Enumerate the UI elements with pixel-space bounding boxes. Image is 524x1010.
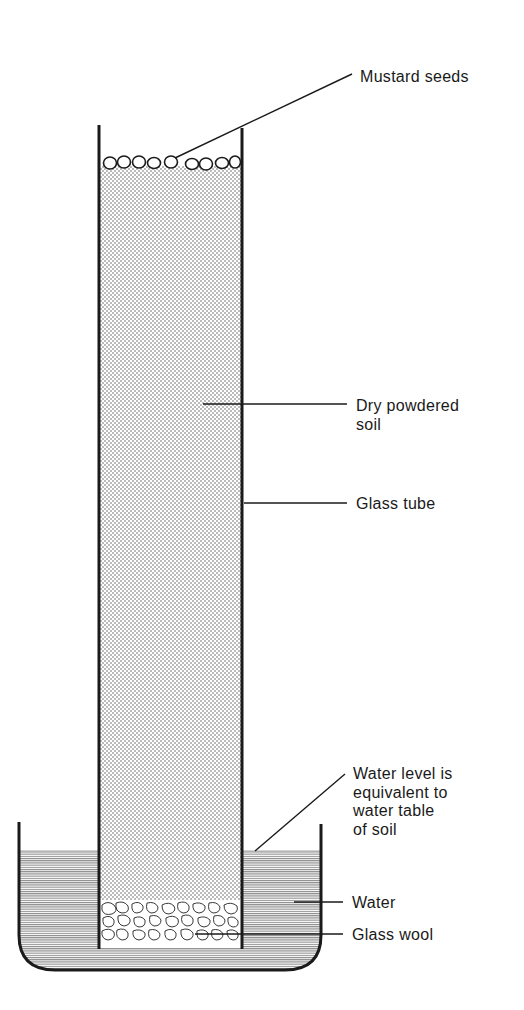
- label-glass-wool: Glass wool: [352, 926, 433, 945]
- label-dry-powdered-soil: Dry powdered soil: [356, 397, 459, 434]
- label-water: Water: [352, 894, 396, 913]
- glass-wool: [100, 900, 241, 948]
- mustard-seeds: [104, 156, 241, 170]
- water-level-leader: [255, 774, 345, 851]
- label-water-level: Water level is equivalent to water table…: [353, 765, 453, 839]
- experiment-diagram: [0, 0, 524, 1010]
- mustard-seeds-leader: [175, 74, 352, 158]
- label-glass-tube: Glass tube: [356, 495, 435, 514]
- label-mustard-seeds: Mustard seeds: [360, 68, 469, 87]
